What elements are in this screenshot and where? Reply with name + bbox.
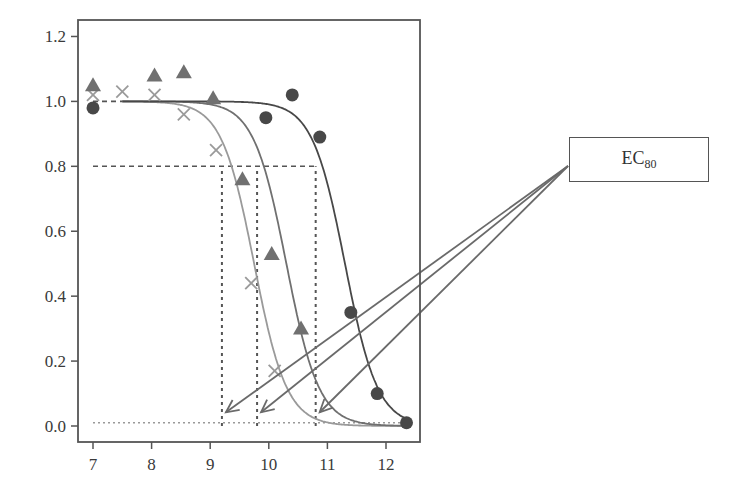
fit-curve-crosses [122,102,403,427]
triangle-marker [205,90,221,104]
cross-marker [149,89,161,101]
triangle-marker [234,171,250,185]
x-tick-label: 7 [89,455,98,474]
cross-marker [210,144,222,156]
y-tick-label: 1.2 [45,27,66,46]
ec80-label-main: EC [621,148,644,168]
ec80-annotation-box: EC80 [569,137,709,182]
x-tick-label: 8 [147,455,156,474]
x-tick-label: 9 [206,455,215,474]
circle-marker [371,387,384,400]
ec80-label: EC80 [621,148,656,172]
ec80-label-subscript: 80 [645,157,657,171]
x-axis-ticks: 789101112 [89,442,395,474]
circle-marker [286,88,299,101]
triangle-marker [147,67,163,81]
data-points [85,64,413,429]
y-tick-label: 0.2 [45,352,66,371]
triangle-marker [293,321,309,335]
ec80-arrow-line [261,166,568,412]
fit-curve-triangles [122,101,403,425]
y-tick-label: 0.8 [45,157,66,176]
fit-curve-circles [122,101,409,420]
x-tick-label: 10 [260,455,277,474]
cross-marker [178,108,190,120]
x-tick-label: 11 [319,455,335,474]
triangle-marker [176,64,192,78]
ec80-arrow-line [320,166,568,412]
ec80-arrow-line [226,166,568,412]
circle-marker [259,111,272,124]
cross-marker [245,277,257,289]
y-tick-label: 1.0 [45,92,66,111]
plot-border [78,20,420,442]
circle-marker [400,416,413,429]
y-tick-label: 0.6 [45,222,66,241]
ec80-arrows [226,166,568,412]
circle-marker [344,306,357,319]
chart-canvas: 789101112 0.00.20.40.60.81.01.2 [0,0,740,498]
reference-lines [93,101,404,426]
circle-marker [87,101,100,114]
fit-curves [122,101,409,426]
y-tick-label: 0.0 [45,417,66,436]
triangle-marker [85,77,101,91]
cross-marker [116,86,128,98]
triangle-marker [264,246,280,260]
x-tick-label: 12 [378,455,395,474]
y-tick-label: 0.4 [45,287,67,306]
y-axis-ticks: 0.00.20.40.60.81.01.2 [45,27,78,436]
plot-frame [78,20,420,442]
circle-marker [313,131,326,144]
